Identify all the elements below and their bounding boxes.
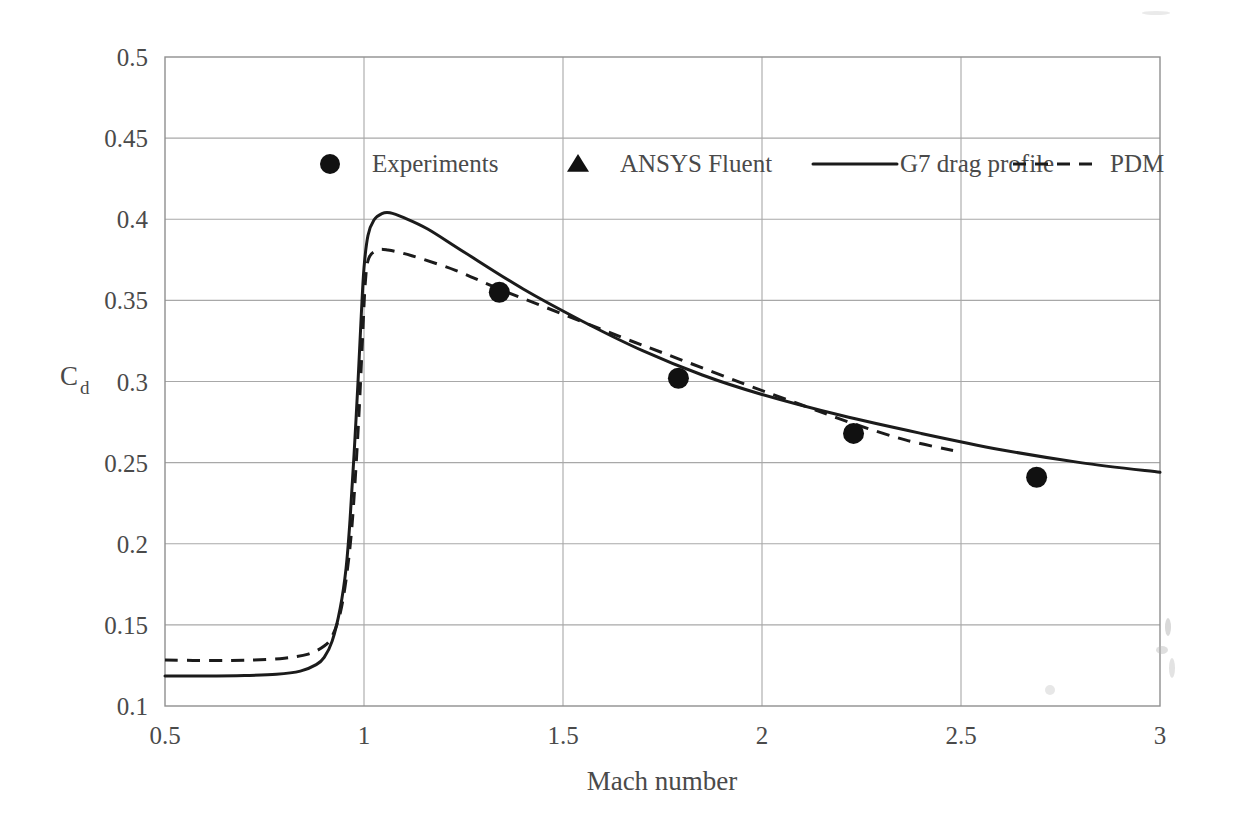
y-axis-title-subscript: d — [80, 377, 90, 398]
y-tick-label: 0.5 — [117, 44, 148, 71]
y-tick-label: 0.4 — [117, 206, 149, 233]
x-tick-label: 1 — [358, 722, 371, 749]
data-point-marker-circle-experiments — [843, 423, 864, 444]
x-tick-label: 0.5 — [149, 722, 180, 749]
y-tick-label: 0.1 — [117, 693, 148, 720]
filled-circle-marker — [320, 154, 340, 174]
legend-label: ANSYS Fluent — [620, 150, 772, 177]
x-tick-label: 1.5 — [547, 722, 578, 749]
chart-background — [0, 0, 1235, 825]
data-point-marker-circle-experiments — [489, 282, 510, 303]
x-tick-label: 3 — [1154, 722, 1167, 749]
y-tick-label: 0.25 — [104, 450, 148, 477]
y-tick-label: 0.15 — [104, 612, 148, 639]
y-axis-title-main: C — [60, 361, 78, 391]
legend-label: G7 drag profile — [900, 150, 1054, 177]
y-tick-label: 0.35 — [104, 287, 148, 314]
x-tick-label: 2.5 — [945, 722, 976, 749]
y-tick-label: 0.45 — [104, 125, 148, 152]
data-point-marker-circle-experiments — [1026, 467, 1047, 488]
data-point-marker-circle-experiments — [668, 368, 689, 389]
drag-coefficient-chart: 0.511.522.53 0.10.150.20.250.30.350.40.4… — [0, 0, 1235, 825]
y-tick-label: 0.2 — [117, 531, 148, 558]
chart-legend: ExperimentsANSYS FluentG7 drag profilePD… — [320, 150, 1164, 177]
x-axis-title: Mach number — [587, 766, 738, 796]
legend-label: PDM — [1110, 150, 1164, 177]
y-tick-label: 0.3 — [117, 369, 148, 396]
legend-label: Experiments — [372, 150, 498, 177]
x-tick-label: 2 — [756, 722, 769, 749]
chart-svg: 0.511.522.53 0.10.150.20.250.30.350.40.4… — [0, 0, 1235, 825]
